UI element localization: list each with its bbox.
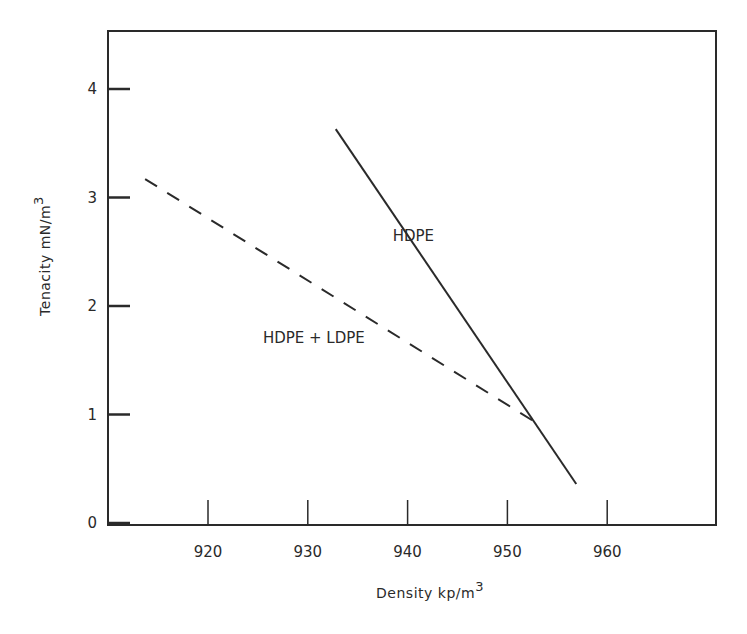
x-axis-ticks: 920930940950960 [194,500,622,561]
y-tick-label: 4 [87,80,97,98]
y-axis-label: Tenacity mN/m3 [31,196,53,317]
y-tick-label: 0 [87,514,97,532]
y-tick-label: 3 [87,189,97,207]
series-label: HDPE [393,227,434,245]
series-labels: HDPEHDPE + LDPE [263,227,434,347]
x-tick-label: 940 [393,543,422,561]
series-label: HDPE + LDPE [263,329,365,347]
x-tick-label: 930 [293,543,322,561]
series-lines [145,129,576,484]
x-axis-label: Density kp/m3 [376,579,484,601]
x-tick-label: 960 [593,543,622,561]
chart-svg: 01234 920930940950960 HDPEHDPE + LDPE De… [0,0,747,634]
y-tick-label: 1 [87,406,97,424]
hdpe-ldpe-line [145,179,533,421]
x-tick-label: 950 [493,543,522,561]
plot-frame [108,31,716,525]
y-tick-label: 2 [87,297,97,315]
hdpe-line [336,129,577,484]
x-tick-label: 920 [194,543,223,561]
